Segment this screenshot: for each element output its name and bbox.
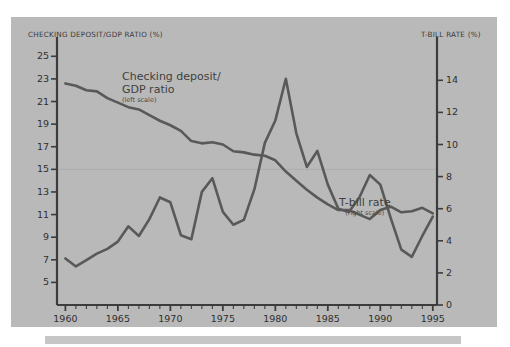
deposit-note-line1: Checking deposit/	[122, 70, 221, 83]
left-axis-tick-label: 19	[27, 118, 49, 129]
tbill-note-line1: T-bill rate	[339, 196, 391, 209]
figure-canvas: CHECKING DEPOSIT/GDP RATIO (%) T-BILL RA…	[0, 0, 510, 347]
left-axis-tick-label: 13	[27, 186, 49, 197]
right-axis-tick-label: 8	[446, 171, 468, 182]
left-axis-title: CHECKING DEPOSIT/GDP RATIO (%)	[28, 30, 163, 39]
deposit-note-line2: GDP ratio	[122, 83, 221, 96]
x-axis-tick-label: 1980	[258, 313, 292, 324]
right-axis-tick-label: 0	[446, 299, 468, 310]
left-axis-tick-label: 21	[27, 96, 49, 107]
deposit-note-scale: (left scale)	[122, 96, 221, 105]
left-axis-tick-label: 23	[27, 73, 49, 84]
series-annotation-checking-deposit: Checking deposit/ GDP ratio (left scale)	[122, 70, 221, 105]
left-axis-tick-label: 7	[27, 254, 49, 265]
right-axis-title: T-BILL RATE (%)	[421, 30, 481, 39]
tbill-note-scale: (right scale)	[339, 209, 391, 218]
left-axis-tick-label: 11	[27, 209, 49, 220]
left-axis-tick-label: 15	[27, 163, 49, 174]
x-axis-tick-label: 1975	[206, 313, 240, 324]
x-axis-tick-label: 1960	[48, 313, 82, 324]
x-axis-tick-label: 1965	[101, 313, 135, 324]
right-axis-tick-label: 14	[446, 74, 468, 85]
x-axis-tick-label: 1995	[416, 313, 450, 324]
chart-plot	[0, 0, 510, 347]
right-axis-tick-label: 10	[446, 139, 468, 150]
right-axis-tick-label: 2	[446, 267, 468, 278]
right-axis-tick-label: 4	[446, 235, 468, 246]
left-axis-tick-label: 5	[27, 276, 49, 287]
right-axis-tick-label: 6	[446, 203, 468, 214]
series-line-tbill	[65, 79, 432, 267]
x-axis-tick-label: 1990	[363, 313, 397, 324]
x-axis-tick-label: 1985	[311, 313, 345, 324]
left-axis-tick-label: 9	[27, 231, 49, 242]
left-axis-tick-label: 17	[27, 141, 49, 152]
left-axis-tick-label: 25	[27, 50, 49, 61]
right-axis-tick-label: 12	[446, 106, 468, 117]
series-annotation-tbill: T-bill rate (right scale)	[339, 196, 391, 218]
x-axis-tick-label: 1970	[153, 313, 187, 324]
